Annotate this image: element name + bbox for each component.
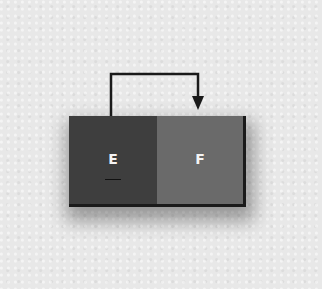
arrow-e-to-f-icon	[0, 0, 322, 289]
